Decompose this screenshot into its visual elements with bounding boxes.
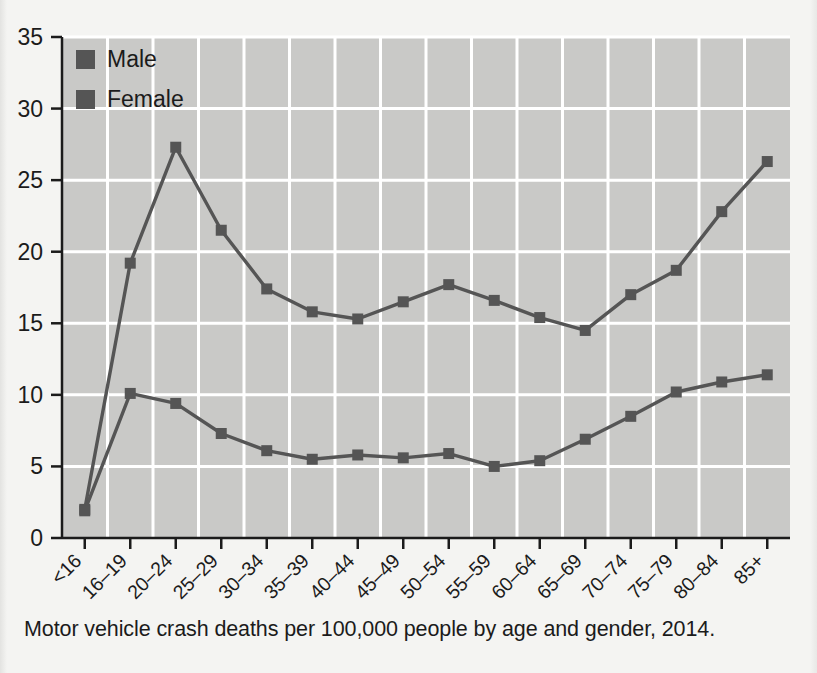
marker-female-0 [79, 505, 90, 516]
x-tick-label-8: 50–54 [396, 549, 450, 603]
x-tick-label-13: 75–79 [623, 549, 677, 603]
marker-male-8 [443, 279, 454, 290]
x-tick-label-15: 85+ [729, 549, 768, 588]
marker-female-2 [170, 398, 181, 409]
y-tick-label-30: 30 [17, 96, 43, 122]
y-tick-label-15: 15 [17, 310, 43, 336]
y-tick-label-0: 0 [30, 525, 43, 551]
y-tick-label-10: 10 [17, 382, 43, 408]
x-tick-label-0: <16 [47, 549, 86, 588]
x-tick-label-2: 20–24 [123, 549, 177, 603]
x-tick-label-4: 30–34 [214, 549, 268, 603]
marker-male-12 [625, 289, 636, 300]
marker-female-13 [671, 386, 682, 397]
y-tick-label-25: 25 [17, 167, 43, 193]
legend-label-female: Female [107, 86, 184, 112]
marker-male-5 [307, 306, 318, 317]
marker-male-10 [534, 312, 545, 323]
marker-female-1 [125, 388, 136, 399]
x-tick-label-14: 80–84 [669, 549, 723, 603]
x-tick-label-7: 45–49 [350, 549, 404, 603]
y-axis-ticks [51, 37, 62, 538]
figure-page: 05101520253035 <1616–1920–2425–2930–3435… [0, 0, 817, 673]
marker-female-4 [261, 445, 272, 456]
legend-swatch-female [76, 90, 95, 109]
marker-female-11 [580, 434, 591, 445]
marker-male-6 [352, 313, 363, 324]
marker-female-6 [352, 449, 363, 460]
marker-male-4 [261, 283, 272, 294]
marker-male-14 [716, 206, 727, 217]
marker-male-2 [170, 142, 181, 153]
y-tick-label-5: 5 [30, 453, 43, 479]
marker-female-8 [443, 448, 454, 459]
x-tick-label-5: 35–39 [259, 549, 313, 603]
y-tick-label-20: 20 [17, 239, 43, 265]
x-axis-ticks [85, 538, 768, 549]
x-tick-label-10: 60–64 [487, 549, 541, 603]
x-tick-label-1: 16–19 [77, 549, 131, 603]
marker-male-7 [398, 296, 409, 307]
figure-caption: Motor vehicle crash deaths per 100,000 p… [24, 614, 804, 644]
x-axis-tick-labels: <1616–1920–2425–2930–3435–3940–4445–4950… [47, 549, 768, 603]
y-tick-label-35: 35 [17, 24, 43, 50]
x-tick-label-3: 25–29 [168, 549, 222, 603]
marker-male-1 [125, 258, 136, 269]
marker-female-10 [534, 455, 545, 466]
x-tick-label-9: 55–59 [441, 549, 495, 603]
line-chart: 05101520253035 <1616–1920–2425–2930–3435… [0, 0, 817, 610]
marker-female-15 [762, 369, 773, 380]
marker-female-5 [307, 454, 318, 465]
legend-swatch-male [76, 50, 95, 69]
marker-female-7 [398, 452, 409, 463]
marker-female-9 [489, 461, 500, 472]
y-axis-tick-labels: 05101520253035 [17, 24, 43, 551]
chart-figure: 05101520253035 <1616–1920–2425–2930–3435… [0, 0, 817, 610]
marker-male-9 [489, 295, 500, 306]
marker-female-3 [216, 428, 227, 439]
marker-male-13 [671, 265, 682, 276]
x-tick-label-11: 65–69 [532, 549, 586, 603]
x-tick-label-6: 40–44 [305, 549, 359, 603]
marker-female-14 [716, 376, 727, 387]
marker-male-3 [216, 225, 227, 236]
marker-female-12 [625, 411, 636, 422]
legend-label-male: Male [107, 46, 157, 72]
marker-male-15 [762, 156, 773, 167]
marker-male-11 [580, 325, 591, 336]
x-tick-label-12: 70–74 [578, 549, 632, 603]
